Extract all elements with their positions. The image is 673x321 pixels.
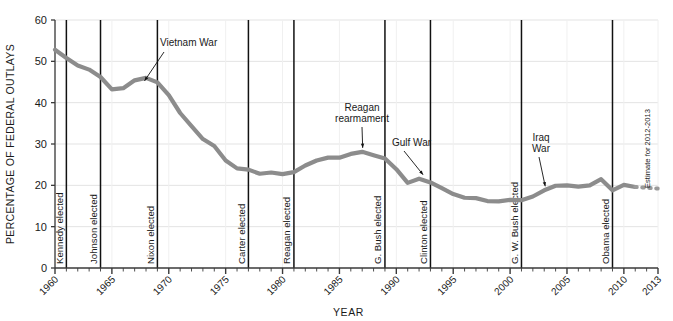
y-tick-label-20: 20 bbox=[35, 179, 47, 191]
x-tick-label-1985: 1985 bbox=[321, 273, 345, 297]
x-tick-label-2010: 2010 bbox=[606, 273, 630, 297]
axis-labels: YEARPERCENTAGE OF FEDERAL OUTLAYS bbox=[4, 44, 364, 318]
annotations: Vietnam WarReaganrearmamentGulf WarIraqW… bbox=[145, 37, 653, 188]
y-tick-label-50: 50 bbox=[35, 55, 47, 67]
y-tick-label-40: 40 bbox=[35, 97, 47, 109]
annotation-iraq-war-text: Iraq bbox=[532, 132, 549, 143]
defense-outlays-line-chart: Kennedy electedJohnson electedNixon elec… bbox=[0, 0, 673, 321]
x-tick-label-1965: 1965 bbox=[94, 273, 118, 297]
y-tick-label-30: 30 bbox=[35, 138, 47, 150]
annotation-reagan-rearmament-text: rearmament bbox=[335, 113, 389, 124]
annotation-reagan-rearmament-text: Reagan bbox=[344, 102, 379, 113]
x-tick-label-1960: 1960 bbox=[37, 273, 61, 297]
event-label-2009: Obama elected bbox=[600, 199, 611, 264]
event-label-1989: G. Bush elected bbox=[372, 196, 383, 264]
event-label-1969: Nixon elected bbox=[145, 206, 156, 264]
annotation-iraq-war-leader bbox=[539, 157, 545, 186]
x-axis-title: YEAR bbox=[333, 306, 364, 318]
annotation-iraq-war-text: War bbox=[532, 143, 551, 154]
x-tick-label-1990: 1990 bbox=[378, 273, 402, 297]
annotation-vietnam-war-text: Vietnam War bbox=[160, 37, 218, 48]
x-tick-label-2000: 2000 bbox=[492, 273, 516, 297]
annotation-gulf-war-text: Gulf War bbox=[392, 137, 432, 148]
event-label-2001: G. W. Bush elected bbox=[509, 182, 520, 264]
x-tick-label-2013: 2013 bbox=[640, 273, 664, 297]
series-defense-outlays bbox=[55, 50, 635, 202]
x-tick-label-1980: 1980 bbox=[264, 273, 288, 297]
y-tick-label-60: 60 bbox=[35, 14, 47, 26]
data-series bbox=[55, 50, 658, 202]
chart-root: Kennedy electedJohnson electedNixon elec… bbox=[0, 0, 673, 321]
x-tick-label-1995: 1995 bbox=[435, 273, 459, 297]
annotation-reagan-rearmament-arrowhead bbox=[361, 144, 364, 148]
annotation-estimate-note: Estimate for 2012-2013 bbox=[643, 109, 652, 188]
event-label-1964: Johnson elected bbox=[88, 194, 99, 264]
x-tick-label-2005: 2005 bbox=[549, 273, 573, 297]
event-label-1981: Reagan elected bbox=[281, 197, 292, 264]
y-axis-title: PERCENTAGE OF FEDERAL OUTLAYS bbox=[4, 44, 16, 244]
event-label-1993: Clinton elected bbox=[418, 201, 429, 264]
x-tick-label-1975: 1975 bbox=[208, 273, 232, 297]
y-tick-label-0: 0 bbox=[41, 262, 47, 274]
event-label-1977: Carter elected bbox=[236, 204, 247, 264]
y-tick-label-10: 10 bbox=[35, 221, 47, 233]
annotation-vietnam-war-leader bbox=[145, 52, 164, 81]
annotation-gulf-war-leader bbox=[404, 151, 423, 175]
x-tick-label-1970: 1970 bbox=[151, 273, 175, 297]
